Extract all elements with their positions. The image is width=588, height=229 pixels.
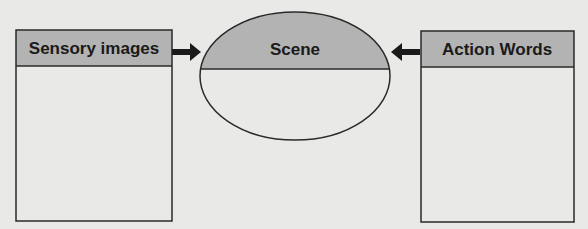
arrow-right-icon — [172, 43, 201, 61]
sensory-images-box: Sensory images — [16, 30, 172, 221]
arrow-left-icon — [391, 43, 420, 61]
sensory-images-title: Sensory images — [29, 39, 159, 58]
action-words-title: Action Words — [442, 40, 552, 59]
action-words-box: Action Words — [421, 31, 574, 222]
scene-header-fill — [200, 12, 390, 140]
scene-ellipse: Scene — [200, 12, 390, 140]
scene-diagram: Sensory images Scene Action Words — [0, 0, 588, 229]
scene-title: Scene — [270, 40, 320, 59]
